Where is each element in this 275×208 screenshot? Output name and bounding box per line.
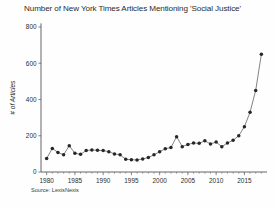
source-note: Source: LexisNexis xyxy=(31,187,79,193)
x-tick-label: 1995 xyxy=(124,177,139,184)
y-tick-label: 800 xyxy=(26,23,37,30)
series-point xyxy=(141,157,145,161)
y-tick-label: 200 xyxy=(26,132,37,139)
series-point xyxy=(220,145,224,149)
series-point xyxy=(73,152,77,156)
y-tick-label: 0 xyxy=(33,168,37,175)
series-point xyxy=(84,149,88,153)
series-point xyxy=(101,149,105,153)
series-point xyxy=(45,157,49,161)
series-point xyxy=(243,125,247,129)
series-point xyxy=(135,158,139,162)
x-tick-label: 1985 xyxy=(68,177,83,184)
series-point xyxy=(209,142,213,146)
series-point xyxy=(181,145,185,149)
series-point xyxy=(169,146,173,150)
series-point xyxy=(107,150,111,154)
series-point xyxy=(164,147,168,151)
series-point xyxy=(260,52,264,56)
series-point xyxy=(68,144,72,148)
x-tick-label: 1990 xyxy=(96,177,111,184)
y-tick-label: 600 xyxy=(26,60,37,67)
series-point xyxy=(237,134,241,138)
x-tick-label: 1980 xyxy=(40,177,55,184)
series-point xyxy=(147,156,151,160)
series-point xyxy=(56,151,60,155)
x-tick-label: 2015 xyxy=(237,177,252,184)
series-point xyxy=(175,135,179,139)
series-point xyxy=(254,89,258,93)
series-point xyxy=(158,150,162,154)
series-point xyxy=(192,141,196,145)
x-tick-label: 2005 xyxy=(181,177,196,184)
chart-figure: Number of New York Times Articles Mentio… xyxy=(0,0,275,208)
series-point xyxy=(130,158,134,162)
series-point xyxy=(226,141,230,145)
x-tick-label: 2010 xyxy=(209,177,224,184)
series-point xyxy=(214,140,218,144)
series-point xyxy=(248,110,252,114)
series-point xyxy=(96,149,100,153)
y-tick-label: 400 xyxy=(26,96,37,103)
series-point xyxy=(152,153,156,157)
series-point xyxy=(51,147,55,151)
chart-plot-area: 0200400600800198019851990199520002005201… xyxy=(0,0,275,208)
series-point xyxy=(62,153,66,157)
series-point xyxy=(113,152,117,156)
series-point xyxy=(118,153,122,157)
series-point xyxy=(203,139,207,143)
series-point xyxy=(79,152,83,156)
series-point xyxy=(124,158,128,162)
series-line xyxy=(47,54,262,160)
series-point xyxy=(197,142,201,146)
series-point xyxy=(186,143,190,147)
y-axis-label: # of Articles xyxy=(9,80,16,115)
series-point xyxy=(90,148,94,152)
series-point xyxy=(231,139,235,143)
x-tick-label: 2000 xyxy=(153,177,168,184)
